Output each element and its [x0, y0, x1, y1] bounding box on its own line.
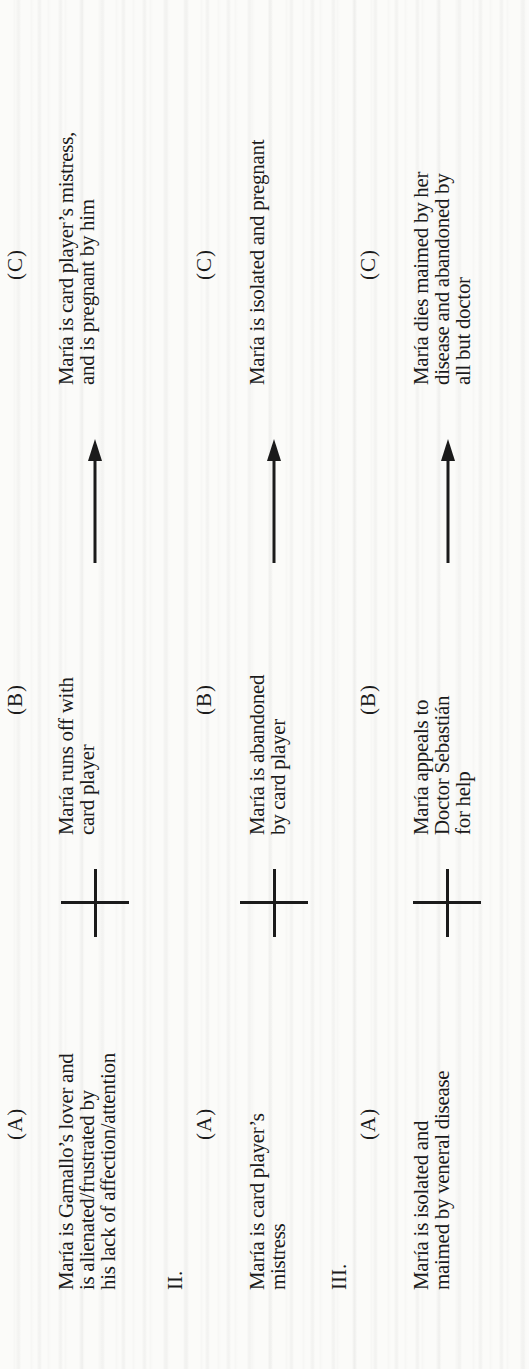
row-3-label-b: (B): [357, 684, 379, 715]
row-1-text-c: María is card player’s mistress, and is …: [56, 132, 98, 385]
scanned-page: (A) María is Gamallo’s lover and is alie…: [0, 0, 529, 1369]
row-3-text-c: María dies maimed by her disease and aba…: [411, 172, 474, 385]
row-1-label-b: (B): [4, 684, 26, 715]
arrow-right-icon: [264, 439, 284, 563]
row-2-text-a: María is card player’s mistress: [247, 1113, 289, 1290]
plus-icon: [413, 869, 481, 937]
row-1-text-b: María runs off with card player: [56, 677, 98, 835]
row-3-text-a: María is isolated and maimed by veneral …: [411, 1071, 453, 1290]
row-2-numeral: II.: [164, 1271, 186, 1290]
row-3-numeral: III.: [328, 1264, 350, 1290]
row-3-label-c: (C): [357, 249, 379, 280]
row-1-label-c: (C): [4, 249, 26, 280]
row-2-label-a: (A): [193, 1108, 215, 1140]
row-2-text-b: María is abandoned by card player: [247, 675, 289, 835]
arrow-right-icon: [438, 439, 458, 563]
arrow-right-icon: [85, 439, 105, 563]
row-2-text-c: María is isolated and pregnant: [247, 140, 268, 385]
row-2-label-c: (C): [193, 249, 215, 280]
row-3-text-b: María appeals to Doctor Sebastián for he…: [411, 696, 474, 835]
row-1-text-a: María is Gamallo’s lover and is alienate…: [56, 1053, 119, 1290]
plus-icon: [240, 869, 308, 937]
row-1-label-a: (A): [4, 1108, 26, 1140]
plus-icon: [61, 869, 129, 937]
row-3-label-a: (A): [357, 1108, 379, 1140]
row-2-label-b: (B): [193, 684, 215, 715]
